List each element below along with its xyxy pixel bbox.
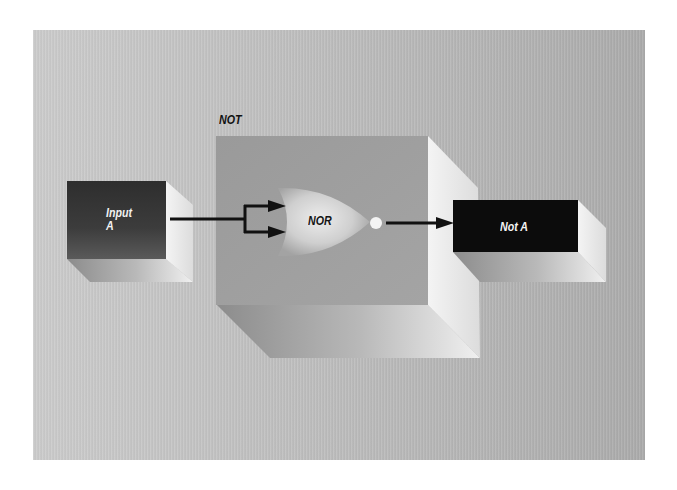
not-title-label: NOT <box>219 112 242 127</box>
not-a-output-block <box>453 200 606 282</box>
not-container-box <box>216 136 480 358</box>
input-a-label: Input A <box>106 206 132 232</box>
not-a-label: Not A <box>500 219 528 234</box>
nor-gate-label: NOR <box>308 213 332 228</box>
not-gate-diagram <box>0 0 677 490</box>
input-label-line2: A <box>106 219 132 232</box>
inversion-bubble <box>370 217 382 229</box>
